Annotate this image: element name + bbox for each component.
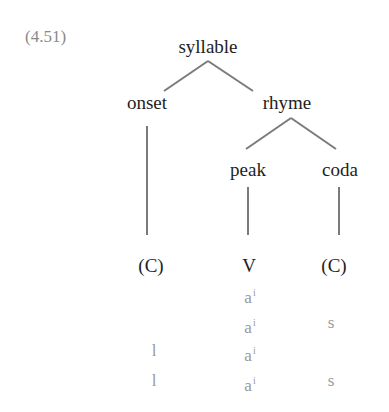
slot-peak: V [242, 256, 256, 276]
row-1-peak: ai [244, 314, 255, 337]
row-0-peak: ai [244, 284, 255, 307]
branch-syllable-rhyme [208, 61, 253, 91]
row-3-onset: l [152, 372, 157, 390]
row-2-peak: ai [244, 342, 255, 365]
node-syllable: syllable [178, 37, 237, 57]
slot-onset: (C) [138, 256, 163, 276]
branch-rhyme-coda [291, 118, 336, 149]
branch-syllable-onset [164, 61, 208, 91]
node-rhyme: rhyme [263, 93, 312, 113]
branch-rhyme-peak [246, 118, 291, 149]
slot-coda: (C) [321, 256, 346, 276]
row-1-coda: s [328, 314, 335, 332]
node-onset: onset [127, 93, 167, 113]
tree-branches [0, 0, 389, 412]
node-coda: coda [322, 160, 358, 180]
row-3-coda: s [328, 372, 335, 390]
node-peak: peak [230, 160, 266, 180]
row-2-onset: l [152, 342, 157, 360]
row-3-peak: ai [244, 372, 255, 395]
